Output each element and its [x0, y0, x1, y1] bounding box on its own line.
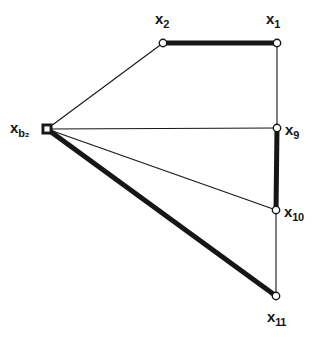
edge-xb2-x9	[47, 128, 277, 129]
node-marker-x2[interactable]	[159, 39, 166, 46]
node-marker-x10[interactable]	[272, 206, 279, 213]
node-label-x2: x2	[155, 11, 169, 30]
graph-diagram: xb₂x2x1x9x10x11	[0, 0, 321, 363]
edge-xb2-x2	[47, 43, 163, 129]
node-label-subscript-x10: 10	[292, 211, 303, 223]
edge-xb2-x11	[47, 129, 276, 296]
node-label-x11: x11	[267, 309, 286, 328]
node-label-subscript-x1: 1	[274, 18, 280, 30]
node-marker-x9[interactable]	[273, 124, 280, 131]
node-label-subscript-x9: 9	[293, 129, 299, 141]
node-marker-x11[interactable]	[272, 292, 279, 299]
node-label-x9: x9	[285, 122, 299, 141]
node-label-x10: x10	[284, 204, 304, 223]
node-label-x1: x1	[266, 11, 280, 30]
edges-layer	[47, 43, 277, 296]
edge-xb2-x10	[47, 129, 276, 210]
node-marker-xb2[interactable]	[42, 124, 53, 135]
node-label-subscript-x2: 2	[163, 18, 169, 30]
node-square-inner-xb2	[44, 126, 49, 131]
node-label-subscript-xb2: b₂	[18, 127, 29, 139]
edge-x9-x10	[276, 128, 277, 210]
node-label-xb2: xb₂	[10, 120, 29, 139]
node-label-subscript-x11: 11	[275, 316, 286, 328]
node-marker-x1[interactable]	[273, 39, 280, 46]
